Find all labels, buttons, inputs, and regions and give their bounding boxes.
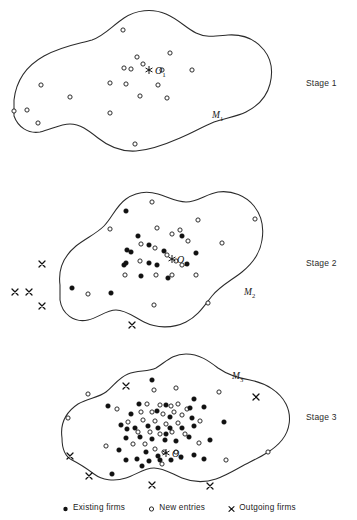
existing-firm-marker <box>140 464 145 469</box>
new-entry-marker <box>220 241 224 245</box>
existing-firm-marker <box>155 409 160 414</box>
new-entry-marker <box>148 430 152 434</box>
new-entry-marker <box>164 422 168 426</box>
existing-firm-marker <box>156 426 161 431</box>
existing-firm-marker <box>187 435 192 440</box>
existing-firm-marker <box>106 404 111 409</box>
new-entry-marker <box>124 82 128 86</box>
outgoing-firm-marker <box>39 261 45 267</box>
existing-firm-marker <box>109 291 114 296</box>
new-entry-marker <box>198 419 202 423</box>
outgoing-firm-marker <box>12 289 18 295</box>
existing-firm-marker <box>124 261 129 266</box>
legend-item-new-entries: New entries <box>147 504 205 513</box>
new-entry-marker <box>165 96 169 100</box>
new-entry-marker <box>194 273 198 277</box>
outgoing-firm-marker <box>86 473 92 479</box>
existing-firm-marker <box>136 234 141 239</box>
legend-item-outgoing-firms: Outgoing firms <box>227 504 296 513</box>
outgoing-firm-marker <box>123 383 129 389</box>
legend: Existing firms New entries Outgoing firm… <box>0 498 357 518</box>
existing-firm-marker <box>138 435 143 440</box>
new-entry-marker <box>122 66 126 70</box>
new-entry-marker <box>153 447 157 451</box>
existing-firm-marker <box>110 472 115 477</box>
existing-firm-marker <box>168 415 173 420</box>
origin-label-1: O1 <box>155 65 166 79</box>
new-entry-marker <box>145 402 149 406</box>
new-entry-marker <box>152 388 156 392</box>
existing-firm-marker <box>147 459 152 464</box>
new-entry-marker <box>108 227 112 231</box>
new-entry-marker <box>172 410 176 414</box>
outgoing-firm-marker <box>253 394 259 400</box>
existing-firm-marker <box>125 427 130 432</box>
market-boundary-1 <box>14 11 272 152</box>
existing-firm-marker <box>164 432 169 437</box>
new-entry-marker <box>115 407 119 411</box>
new-entry-marker <box>12 109 16 113</box>
legend-label-outgoing-firms: Outgoing firms <box>239 504 296 512</box>
outgoing-firm-marker <box>129 322 135 328</box>
outgoing-firm-marker <box>39 303 45 309</box>
origin-label-3: O3 <box>172 448 183 462</box>
existing-firm-marker <box>133 426 138 431</box>
existing-firm-marker <box>135 457 140 462</box>
new-entry-marker <box>86 292 90 296</box>
stage-group-3 <box>62 354 290 489</box>
existing-firm-marker <box>129 412 134 417</box>
market-label-2: M2 <box>244 287 255 299</box>
existing-firm-marker <box>139 274 144 279</box>
existing-firm-marker <box>164 403 169 408</box>
existing-firm-marker <box>129 250 134 255</box>
existing-firm-marker <box>119 423 124 428</box>
new-entry-marker <box>154 273 158 277</box>
new-entry-marker <box>139 410 143 414</box>
existing-firm-marker <box>188 406 193 411</box>
market-boundary-2 <box>60 192 263 327</box>
new-entry-marker <box>86 392 90 396</box>
new-entry-marker <box>168 51 172 55</box>
existing-firm-marker <box>208 438 213 443</box>
existing-firm-marker <box>180 234 185 239</box>
origin-label-2: O2 <box>177 254 188 268</box>
new-entry-marker <box>176 402 180 406</box>
new-entry-marker <box>139 242 143 246</box>
existing-firm-marker <box>117 448 122 453</box>
new-entry-marker <box>68 95 72 99</box>
existing-firm-marker <box>180 426 185 431</box>
new-entry-marker <box>266 450 270 454</box>
existing-firm-marker <box>147 261 152 266</box>
new-entry-marker <box>206 301 210 305</box>
existing-firm-marker <box>202 405 207 410</box>
existing-firm-marker <box>194 251 199 256</box>
new-entry-marker <box>36 121 40 125</box>
outgoing-firm-marker <box>26 289 32 295</box>
new-entry-marker <box>141 418 145 422</box>
new-entry-marker <box>155 226 159 230</box>
new-entry-marker <box>253 217 257 221</box>
new-entry-marker <box>190 68 194 72</box>
new-entry-marker <box>158 403 162 407</box>
open-circle-icon <box>147 504 156 513</box>
new-entry-marker <box>165 253 169 257</box>
new-entry-marker <box>183 432 187 436</box>
existing-firm-marker <box>70 286 75 291</box>
new-entry-marker <box>156 83 160 87</box>
new-entry-marker <box>133 142 137 146</box>
new-entry-marker <box>39 83 43 87</box>
new-entry-marker <box>150 410 154 414</box>
market-label-1: M1 <box>212 110 223 122</box>
new-entry-marker <box>136 430 140 434</box>
new-entry-marker <box>123 273 127 277</box>
new-entry-marker <box>152 303 156 307</box>
existing-firm-marker <box>192 453 197 458</box>
existing-firm-marker <box>162 249 167 254</box>
outgoing-firm-marker <box>67 453 73 459</box>
existing-firm-marker <box>146 424 151 429</box>
new-entry-marker <box>161 412 165 416</box>
new-entry-marker <box>169 404 173 408</box>
existing-firm-marker <box>137 402 142 407</box>
outgoing-firm-marker <box>207 483 213 489</box>
new-entry-marker <box>108 81 112 85</box>
